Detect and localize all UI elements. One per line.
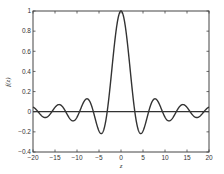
series-line-fz [33, 11, 209, 134]
y-tick-label: 1 [27, 7, 31, 14]
x-tick-label: 20 [205, 154, 213, 161]
y-tick-label: 0.4 [22, 68, 31, 75]
x-tick-label: 5 [141, 154, 145, 161]
y-tick-label: 0 [27, 108, 31, 115]
y-tick-label: −0.2 [18, 128, 31, 135]
y-tick-label: 0.2 [22, 88, 31, 95]
y-axis-label: f(z) [4, 77, 12, 87]
x-tick-label: 0 [119, 154, 123, 161]
plot-area [33, 11, 209, 152]
y-tick-label: 0.6 [22, 48, 31, 55]
x-axis-ticks: −20−15−10−505101520 [27, 11, 213, 161]
y-axis-ticks: −0.4−0.200.20.40.60.81 [18, 7, 209, 155]
x-axis-label: z [119, 162, 123, 170]
x-tick-label: −15 [49, 154, 60, 161]
x-tick-label: 15 [183, 154, 191, 161]
x-tick-label: −5 [95, 154, 103, 161]
plot-frame [33, 11, 209, 152]
x-tick-label: 10 [161, 154, 169, 161]
x-tick-label: −10 [71, 154, 82, 161]
chart: −20−15−10−505101520 −0.4−0.200.20.40.60.… [0, 0, 224, 174]
y-tick-label: 0.8 [22, 27, 31, 34]
y-tick-label: −0.4 [18, 148, 31, 155]
